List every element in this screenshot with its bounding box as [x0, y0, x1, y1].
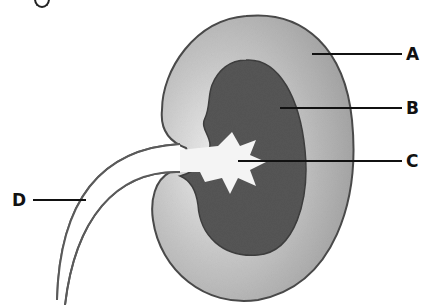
label-c: C — [406, 153, 418, 170]
label-a: A — [406, 46, 419, 63]
label-b: B — [406, 100, 419, 117]
label-d: D — [12, 192, 26, 209]
kidney-diagram — [0, 0, 437, 307]
